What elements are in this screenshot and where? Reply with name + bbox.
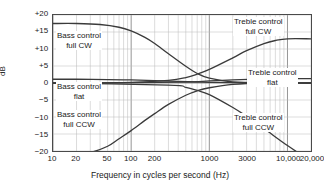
x-tick-2: 50	[103, 155, 112, 163]
y-tick-0: +20	[0, 10, 48, 18]
x-tick-6: 3000	[238, 155, 256, 163]
x-tick-0: 10	[48, 155, 57, 163]
x-tick-4: 200	[148, 155, 161, 163]
y-tick-7: −15	[0, 131, 48, 139]
y-tick-5: −5	[0, 96, 48, 104]
x-tick-1: 20	[71, 155, 80, 163]
x-axis-title: Frequency in cycles per second (Hz)	[0, 170, 320, 180]
y-tick-4: 0	[0, 79, 48, 87]
x-tick-7: 10,000	[276, 155, 300, 163]
series-label-treble-flat: Treble control flat	[247, 68, 298, 87]
y-tick-6: −10	[0, 114, 48, 122]
y-tick-1: +15	[0, 27, 48, 35]
y-tick-3: +5	[0, 62, 48, 70]
x-tick-8: 20,000	[300, 155, 324, 163]
y-tick-8: −20	[0, 148, 48, 156]
y-tick-2: +10	[0, 45, 48, 53]
series-label-treble-full-cw: Treble control full CW	[233, 17, 284, 36]
x-tick-3: 100	[124, 155, 137, 163]
series-label-bass-full-ccw: Bass control full CCW	[56, 110, 102, 129]
series-label-bass-flat: Bass control flat	[56, 82, 102, 101]
series-label-bass-full-cw: Bass control full CW	[56, 31, 102, 50]
x-tick-5: 1000	[201, 155, 219, 163]
series-label-treble-full-ccw: Treble control full CCW	[233, 113, 284, 132]
